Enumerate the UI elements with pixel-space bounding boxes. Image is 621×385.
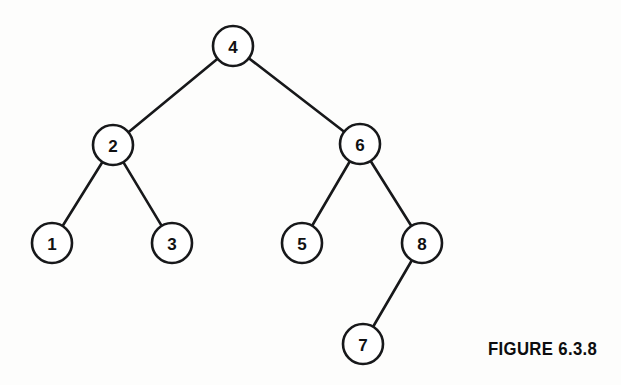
tree-edge-4-2 — [128, 59, 217, 133]
tree-edge-6-5 — [312, 161, 350, 225]
node-label-2: 2 — [108, 137, 117, 156]
tree-edge-4-6 — [249, 58, 344, 132]
tree-node-3[interactable]: 3 — [152, 223, 192, 263]
tree-edge-6-8 — [371, 161, 412, 226]
tree-edge-2-1 — [63, 162, 103, 226]
figure-page: 42613587 FIGURE 6.3.8 — [0, 0, 621, 385]
tree-node-2[interactable]: 2 — [93, 125, 133, 165]
tree-node-8[interactable]: 8 — [402, 223, 442, 263]
tree-edge-8-7 — [373, 260, 412, 326]
node-label-5: 5 — [297, 235, 306, 254]
edges-group — [63, 58, 412, 327]
node-label-8: 8 — [417, 235, 426, 254]
binary-tree-diagram: 42613587 — [0, 0, 621, 385]
tree-node-1[interactable]: 1 — [32, 223, 72, 263]
node-label-6: 6 — [355, 136, 364, 155]
node-label-1: 1 — [47, 235, 56, 254]
node-label-3: 3 — [167, 235, 176, 254]
tree-node-4[interactable]: 4 — [213, 26, 253, 66]
node-label-7: 7 — [358, 336, 367, 355]
tree-node-7[interactable]: 7 — [343, 324, 383, 364]
node-label-4: 4 — [228, 38, 238, 57]
figure-caption: FIGURE 6.3.8 — [488, 338, 597, 360]
tree-node-5[interactable]: 5 — [282, 223, 322, 263]
tree-node-6[interactable]: 6 — [340, 124, 380, 164]
tree-edge-2-3 — [123, 162, 161, 226]
